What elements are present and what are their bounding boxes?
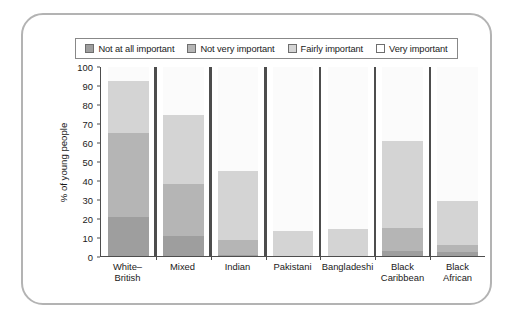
bar-segment[interactable]	[163, 184, 204, 236]
x-axis-label: Mixed	[155, 261, 210, 283]
bar-slot	[266, 67, 321, 256]
bar-segment[interactable]	[108, 81, 149, 133]
x-axis-tick-mark	[320, 256, 321, 260]
x-axis-tick-mark	[430, 256, 431, 260]
y-axis-tick-label: 10	[83, 233, 93, 244]
y-axis-tick-label: 50	[83, 157, 93, 168]
bar-segment[interactable]	[382, 141, 423, 228]
x-axis-tick-mark	[211, 256, 212, 260]
bar-slot	[156, 67, 211, 256]
bar-segment[interactable]	[382, 228, 423, 252]
legend-item-not-very-important[interactable]: Not very important	[187, 44, 274, 54]
legend-label-not-very-important: Not very important	[200, 44, 274, 54]
stacked-bar[interactable]	[437, 67, 478, 256]
x-axis-labels: White–BritishMixedIndianPakistaniBanglad…	[100, 261, 485, 283]
y-axis-ticks: 0102030405060708090100	[71, 67, 97, 257]
bar-segment[interactable]	[437, 245, 478, 253]
bar-segment[interactable]	[108, 217, 149, 256]
legend-item-not-at-all-important[interactable]: Not at all important	[85, 44, 174, 54]
y-axis-tick-label: 20	[83, 214, 93, 225]
bar-segment[interactable]	[218, 255, 259, 256]
stacked-bar[interactable]	[108, 67, 149, 256]
legend-swatch-fairly-important	[288, 44, 297, 53]
y-axis-tick-label: 90	[83, 81, 93, 92]
stacked-bar[interactable]	[328, 67, 369, 256]
bar-slot	[211, 67, 266, 256]
bar-segment[interactable]	[108, 133, 149, 217]
y-axis-tick-label: 100	[77, 62, 93, 73]
legend-swatch-not-at-all-important	[85, 44, 94, 53]
y-axis-tick-label: 0	[88, 252, 93, 263]
bar-segment[interactable]	[437, 252, 478, 256]
x-axis-tick-mark	[156, 256, 157, 260]
bar-segment[interactable]	[108, 67, 149, 81]
chart-frame: Not at all important Not very important …	[21, 13, 492, 305]
bar-segment[interactable]	[163, 115, 204, 184]
bar-slot	[101, 67, 156, 256]
stacked-bar[interactable]	[163, 67, 204, 256]
bar-segment[interactable]	[382, 251, 423, 256]
legend-label-very-important: Very important	[389, 44, 448, 54]
bar-slot	[375, 67, 430, 256]
stacked-bar[interactable]	[218, 67, 259, 256]
y-axis-tick-label: 70	[83, 119, 93, 130]
y-axis-title: % of young people	[57, 67, 71, 257]
y-axis-tick-label: 40	[83, 176, 93, 187]
x-axis-label: Black Caribbean	[375, 261, 430, 283]
legend-label-not-at-all-important: Not at all important	[98, 44, 174, 54]
plot-area	[100, 67, 485, 257]
x-axis-tick-mark	[266, 256, 267, 260]
bar-segment[interactable]	[437, 67, 478, 201]
bar-slot	[320, 67, 375, 256]
stacked-bar[interactable]	[273, 67, 314, 256]
bar-segment[interactable]	[163, 67, 204, 115]
y-axis-tick-label: 80	[83, 100, 93, 111]
x-axis-label: Indian	[210, 261, 265, 283]
bar-slot	[430, 67, 485, 256]
plot-wrapper: % of young people 0102030405060708090100…	[59, 67, 489, 272]
legend-swatch-very-important	[376, 44, 385, 53]
chart-legend: Not at all important Not very important …	[75, 38, 458, 59]
bar-segment[interactable]	[437, 201, 478, 244]
bar-segment[interactable]	[218, 240, 259, 255]
stacked-bar[interactable]	[382, 67, 423, 256]
x-axis-label: Bangladeshi	[320, 261, 375, 283]
bar-segment[interactable]	[218, 67, 259, 171]
y-axis-tick-label: 30	[83, 195, 93, 206]
x-axis-label: Pakistani	[265, 261, 320, 283]
legend-item-very-important[interactable]: Very important	[376, 44, 448, 54]
bar-segment[interactable]	[163, 236, 204, 256]
legend-swatch-not-very-important	[187, 44, 196, 53]
x-axis-tick-mark	[375, 256, 376, 260]
bar-segment[interactable]	[382, 67, 423, 141]
bar-segment[interactable]	[218, 171, 259, 240]
y-axis-title-text: % of young people	[59, 122, 70, 201]
x-axis-label: White–British	[100, 261, 155, 283]
x-axis-label: Black African	[430, 261, 485, 283]
bar-segment[interactable]	[273, 231, 314, 256]
legend-label-fairly-important: Fairly important	[301, 44, 363, 54]
y-axis-tick-label: 60	[83, 138, 93, 149]
bar-segment[interactable]	[328, 229, 369, 256]
legend-item-fairly-important[interactable]: Fairly important	[288, 44, 363, 54]
bar-segment[interactable]	[273, 67, 314, 231]
bar-group	[101, 67, 485, 256]
bar-segment[interactable]	[328, 67, 369, 229]
